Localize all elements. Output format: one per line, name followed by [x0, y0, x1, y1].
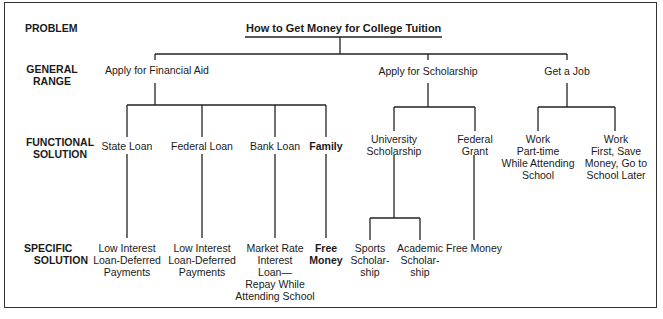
leaf-text: Loan—: [229, 266, 321, 278]
node-bank-loan: Bank Loan: [245, 140, 305, 152]
node-text: University: [359, 133, 429, 145]
node-text: While Attending: [493, 157, 583, 169]
leaf-text: ship: [348, 266, 392, 278]
row-label-specific-solution: SPECIFIC SOLUTION: [24, 242, 88, 266]
leaf-text: Scholar-: [394, 254, 446, 266]
leaf-text: Academic: [394, 242, 446, 254]
node-text: Scholarship: [359, 145, 429, 157]
leaf-state-loan: Low Interest Loan-Deferred Payments: [88, 242, 166, 278]
leaf-text: Money: [306, 254, 346, 266]
leaf-academic-scholarship: Academic Scholar- ship: [394, 242, 446, 278]
problem-title-text: How to Get Money for College Tuition: [246, 22, 441, 34]
node-family: Family: [306, 140, 346, 152]
node-get-a-job: Get a Job: [532, 65, 602, 77]
node-text: Family: [309, 140, 342, 152]
node-work-first-save: Work First, Save Money, Go to School Lat…: [583, 133, 649, 181]
node-text: Money, Go to: [583, 157, 649, 169]
node-apply-scholarship: Apply for Scholarship: [373, 65, 483, 77]
row-label-text: RANGE: [24, 75, 80, 87]
node-work-part-time: Work Part-time While Attending School: [493, 133, 583, 181]
node-text: Apply for Scholarship: [378, 65, 477, 77]
leaf-text: Payments: [88, 266, 166, 278]
node-text: Bank Loan: [250, 140, 300, 152]
node-apply-financial-aid: Apply for Financial Aid: [105, 64, 205, 76]
row-label-text: GENERAL: [24, 63, 80, 75]
leaf-text: Repay While: [229, 278, 321, 290]
node-text: School Later: [583, 169, 649, 181]
node-text: Work: [493, 133, 583, 145]
node-text: Apply for Financial Aid: [105, 64, 209, 76]
leaf-text: Free Money: [444, 242, 504, 254]
leaf-sports-scholarship: Sports Scholar- ship: [348, 242, 392, 278]
node-text: Get a Job: [544, 65, 590, 77]
node-text: First, Save: [583, 145, 649, 157]
leaf-text: Low Interest: [88, 242, 166, 254]
row-label-text: FUNCTIONAL: [24, 136, 96, 148]
leaf-text: Loan-Deferred: [88, 254, 166, 266]
leaf-text: ship: [394, 266, 446, 278]
node-federal-loan: Federal Loan: [167, 140, 237, 152]
row-label-text: PROBLEM: [25, 22, 78, 34]
row-label-general-range: GENERAL RANGE: [24, 63, 80, 87]
row-label-text: SOLUTION: [24, 254, 88, 266]
row-label-problem: PROBLEM: [25, 22, 78, 34]
leaf-family: Free Money: [306, 242, 346, 266]
node-university-scholarship: University Scholarship: [359, 133, 429, 157]
leaf-text: Sports: [348, 242, 392, 254]
node-text: Federal Loan: [171, 140, 233, 152]
problem-title: How to Get Money for College Tuition: [246, 22, 441, 34]
node-text: Part-time: [493, 145, 583, 157]
row-label-text: SOLUTION: [24, 148, 96, 160]
leaf-text: Attending School: [229, 290, 321, 302]
node-text: State Loan: [102, 140, 153, 152]
leaf-text: Free: [306, 242, 346, 254]
leaf-federal-grant: Free Money: [444, 242, 504, 254]
row-label-functional-solution: FUNCTIONAL SOLUTION: [24, 136, 96, 160]
row-label-text: SPECIFIC: [24, 242, 88, 254]
node-state-loan: State Loan: [97, 140, 157, 152]
leaf-text: Scholar-: [348, 254, 392, 266]
node-text: Work: [583, 133, 649, 145]
node-text: School: [493, 169, 583, 181]
